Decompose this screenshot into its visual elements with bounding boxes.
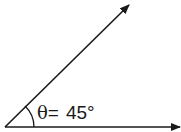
angle-diagram: θ=45° [0, 0, 181, 132]
equals-sign: = [48, 102, 59, 123]
angle-label: θ=45° [37, 102, 95, 123]
theta-symbol: θ [37, 102, 48, 123]
angle-value: 45° [66, 102, 95, 123]
angle-arc [25, 106, 34, 127]
